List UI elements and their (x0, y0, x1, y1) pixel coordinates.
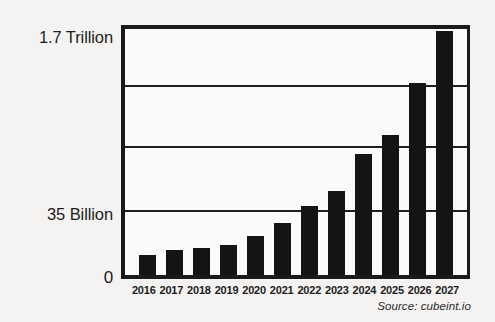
bar-2021 (274, 223, 291, 275)
x-axis-label-2027: 2027 (433, 283, 461, 301)
x-axis-label-2025: 2025 (378, 283, 406, 301)
bar-series (125, 29, 467, 275)
bar-slot-2024 (350, 29, 377, 275)
bar-2019 (220, 245, 237, 275)
y-axis-label-mid: 35 Billion (47, 206, 113, 223)
bar-chart-figure: 1.7 Trillion 35 Billion 0 20162017201820… (0, 0, 495, 322)
x-axis-label-2024: 2024 (351, 283, 379, 301)
bar-2017 (166, 250, 183, 275)
bar-slot-2023 (323, 29, 350, 275)
x-axis-label-2018: 2018 (185, 283, 213, 301)
y-axis-label-group: 1.7 Trillion 35 Billion 0 (0, 0, 113, 322)
plot-inner (125, 29, 467, 275)
bar-2025 (382, 135, 399, 275)
bar-2026 (409, 83, 426, 275)
bar-2027 (436, 31, 453, 275)
bar-slot-2020 (242, 29, 269, 275)
x-axis-label-2023: 2023 (323, 283, 351, 301)
bar-slot-2026 (404, 29, 431, 275)
bar-2018 (193, 248, 210, 275)
x-axis-label-2020: 2020 (240, 283, 268, 301)
bar-slot-2021 (269, 29, 296, 275)
bar-slot-2019 (215, 29, 242, 275)
x-axis-label-2021: 2021 (268, 283, 296, 301)
bar-slot-2025 (377, 29, 404, 275)
bar-2024 (355, 154, 372, 275)
bar-slot-2016 (134, 29, 161, 275)
y-axis-label-zero: 0 (104, 269, 113, 286)
bar-slot-2018 (188, 29, 215, 275)
x-axis-label-2022: 2022 (295, 283, 323, 301)
bar-slot-2022 (296, 29, 323, 275)
bar-slot-2017 (161, 29, 188, 275)
bar-2022 (301, 206, 318, 275)
x-axis-label-2017: 2017 (158, 283, 186, 301)
x-axis-label-2026: 2026 (406, 283, 434, 301)
bar-2020 (247, 236, 264, 275)
source-attribution: Source: cubeint.io (377, 300, 471, 312)
bar-2016 (139, 255, 156, 275)
y-axis-label-top: 1.7 Trillion (39, 29, 113, 46)
plot-area (121, 25, 470, 279)
x-axis-label-group: 2016201720182019202020212022202320242025… (121, 283, 470, 301)
bar-2023 (328, 191, 345, 275)
x-axis-label-2016: 2016 (130, 283, 158, 301)
x-axis-label-2019: 2019 (213, 283, 241, 301)
bar-slot-2027 (431, 29, 458, 275)
